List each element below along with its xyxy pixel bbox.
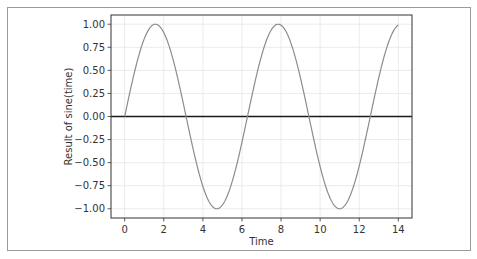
- y-tick-label: −0.25: [74, 134, 105, 145]
- x-tick-label: 0: [121, 224, 127, 235]
- y-tick-label: −0.50: [74, 157, 105, 168]
- x-axis-label: Time: [248, 236, 273, 247]
- x-tick-label: 12: [353, 224, 366, 235]
- y-tick-label: 0.75: [83, 42, 105, 53]
- y-tick-label: 0.25: [83, 88, 105, 99]
- x-axis-ticks: 02468101214: [121, 218, 404, 235]
- x-tick-label: 2: [161, 224, 167, 235]
- x-tick-label: 4: [200, 224, 206, 235]
- x-tick-label: 10: [314, 224, 327, 235]
- y-axis-label: Result of sine(time): [63, 68, 74, 166]
- y-tick-label: 0.50: [83, 65, 105, 76]
- y-tick-label: 0.00: [83, 111, 105, 122]
- y-tick-label: −1.00: [74, 203, 105, 214]
- y-tick-label: 1.00: [83, 19, 105, 30]
- x-tick-label: 8: [278, 224, 284, 235]
- x-tick-label: 6: [239, 224, 245, 235]
- x-tick-label: 14: [392, 224, 405, 235]
- y-tick-label: −0.75: [74, 180, 105, 191]
- sine-chart: 02468101214 1.000.750.500.250.00−0.25−0.…: [0, 0, 477, 259]
- y-axis-ticks: 1.000.750.500.250.00−0.25−0.50−0.75−1.00: [74, 19, 111, 215]
